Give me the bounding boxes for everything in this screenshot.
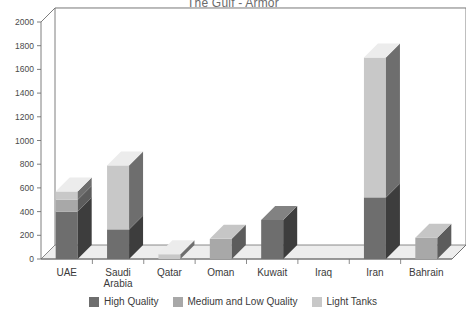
- y-tick-label: 1200: [15, 112, 34, 122]
- x-tick-label: Arabia: [104, 278, 133, 289]
- y-tick-label: 400: [20, 207, 34, 217]
- y-tick-label: 2000: [15, 17, 34, 27]
- legend-label-medium-low-quality: Medium and Low Quality: [188, 297, 298, 307]
- bar-segment: [364, 44, 400, 198]
- x-tick-label: Oman: [207, 267, 234, 278]
- y-axis-ticks: 0200400600800100012001400160018002000: [15, 17, 34, 264]
- legend-item-light-tanks: Light Tanks: [312, 297, 377, 307]
- chart-root: The Gulf - Armor 02004006008001000120014…: [0, 0, 466, 323]
- y-tick-label: 1000: [15, 136, 34, 146]
- legend-swatch-high-quality: [89, 297, 99, 307]
- chart-svg: 0200400600800100012001400160018002000 UA…: [0, 0, 466, 323]
- y-tick-label: 800: [20, 159, 34, 169]
- x-tick-label: Saudi: [105, 267, 131, 278]
- legend-item-high-quality: High Quality: [89, 297, 158, 307]
- legend-label-light-tanks: Light Tanks: [327, 297, 377, 307]
- y-tick-label: 200: [20, 230, 34, 240]
- x-axis-ticks: UAESaudiArabiaQatarOmanKuwaitIraqIranBah…: [56, 259, 443, 289]
- y-tick-label: 1800: [15, 41, 34, 51]
- y-tick-label: 1400: [15, 88, 34, 98]
- x-tick-label: Kuwait: [257, 267, 287, 278]
- x-tick-label: Iraq: [315, 267, 332, 278]
- legend-label-high-quality: High Quality: [104, 297, 158, 307]
- legend-item-medium-low-quality: Medium and Low Quality: [173, 297, 298, 307]
- y-tick-label: 600: [20, 183, 34, 193]
- chart-legend: High Quality Medium and Low Quality Ligh…: [0, 297, 466, 307]
- y-tick-label: 0: [29, 254, 34, 264]
- plot-floor: [41, 8, 466, 259]
- x-tick-label: Iran: [366, 267, 383, 278]
- x-tick-label: Qatar: [157, 267, 183, 278]
- x-tick-label: Bahrain: [409, 267, 443, 278]
- y-tick-label: 1600: [15, 64, 34, 74]
- plot-area: 0200400600800100012001400160018002000 UA…: [0, 0, 466, 323]
- x-tick-label: UAE: [56, 267, 77, 278]
- legend-swatch-medium-low-quality: [173, 297, 183, 307]
- legend-swatch-light-tanks: [312, 297, 322, 307]
